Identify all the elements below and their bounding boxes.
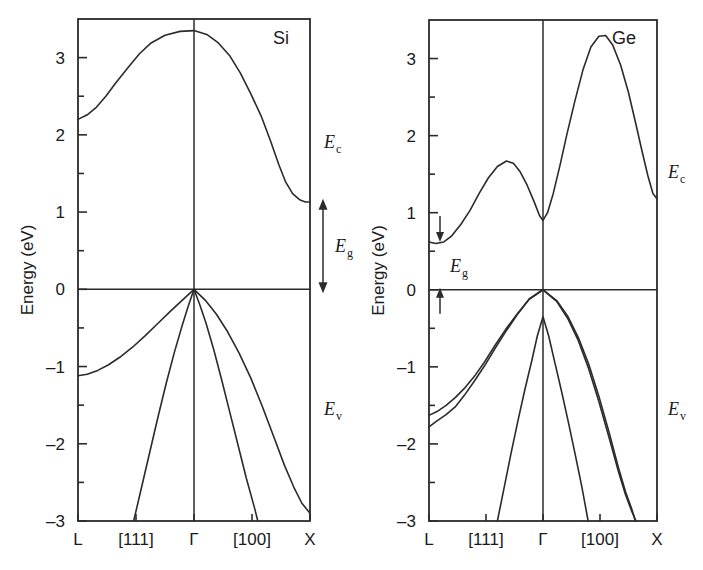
label-ev-si: Ev (323, 399, 342, 423)
ytick-label-ge-5: –2 (397, 435, 416, 454)
xtick-label-ge-3: [100] (581, 530, 619, 549)
gap-arrow-head-up-si (319, 199, 328, 210)
label-eg-subscript-ge: g (462, 266, 468, 280)
ytick-label-si-3: 0 (56, 280, 65, 299)
label-ec-si: Ec (323, 132, 341, 156)
curve-si-valence-band-heavy-hole (134, 289, 258, 521)
ytick-label-si-2: 1 (56, 203, 65, 222)
figure-root: 3210–1–2–3L[111]Γ[100]XSiEcEvEgEnergy (e… (0, 0, 703, 570)
xtick-label-si-2: Γ (189, 530, 198, 549)
panel-title-ge: Ge (612, 28, 636, 48)
xtick-label-ge-4: X (651, 530, 662, 549)
xtick-label-si-0: L (73, 530, 82, 549)
label-ec-ge: Ec (667, 162, 685, 186)
ytick-label-si-0: 3 (56, 49, 65, 68)
curve-ge-valence-band-heavy-hole (429, 290, 635, 521)
ytick-label-ge-6: –3 (397, 512, 416, 531)
label-ev-subscript-ge: v (680, 409, 686, 423)
xtick-label-si-1: [111] (118, 530, 153, 549)
ytick-label-ge-3: 0 (407, 281, 416, 300)
ytick-label-si-5: –2 (46, 435, 65, 454)
gap-arrow-si (319, 199, 328, 293)
y-axis-title-si: Energy (eV) (18, 225, 37, 316)
panel-si: 3210–1–2–3L[111]Γ[100]XSiEcEvEgEnergy (e… (18, 19, 353, 549)
ytick-label-si-1: 2 (56, 126, 65, 145)
ytick-label-ge-2: 1 (407, 204, 416, 223)
curve-ge-valence-band-light-hole (429, 290, 636, 521)
xtick-label-si-4: X (304, 530, 315, 549)
band-structure-figure: 3210–1–2–3L[111]Γ[100]XSiEcEvEgEnergy (e… (0, 0, 703, 570)
label-eg-ge: Eg (449, 256, 468, 280)
panel-title-si: Si (273, 28, 289, 48)
ytick-label-ge-1: 2 (407, 127, 416, 146)
gap-arrow-head-down-ge (436, 232, 444, 242)
label-ec-subscript-ge: c (680, 172, 685, 186)
ytick-label-si-6: –3 (46, 512, 65, 531)
label-ec-subscript-si: c (336, 142, 341, 156)
ytick-label-ge-4: –1 (397, 358, 416, 377)
gap-arrow-head-down-si (319, 282, 328, 293)
xtick-label-si-3: [100] (233, 530, 271, 549)
label-eg-si: Eg (334, 236, 353, 260)
ytick-label-ge-0: 3 (407, 50, 416, 69)
ytick-label-si-4: –1 (46, 358, 65, 377)
label-ev-subscript-si: v (336, 409, 342, 423)
xtick-label-ge-0: L (424, 530, 433, 549)
y-axis-title-ge: Energy (eV) (369, 225, 388, 316)
label-eg-subscript-si: g (347, 246, 353, 260)
label-ev-ge: Ev (667, 399, 686, 423)
xtick-label-ge-1: [111] (468, 530, 503, 549)
xtick-label-ge-2: Γ (538, 530, 547, 549)
panel-ge: 3210–1–2–3L[111]Γ[100]XGeEcEvEgEnergy (e… (369, 20, 686, 549)
gap-arrow-ge (436, 216, 444, 314)
